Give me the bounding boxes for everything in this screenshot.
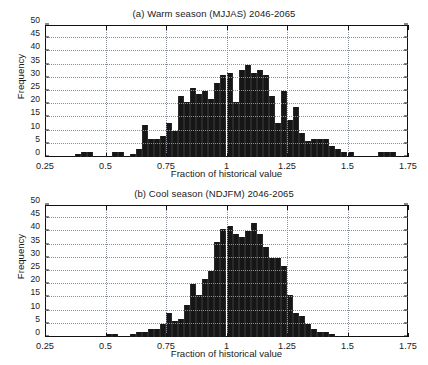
- x-tick-mark: [227, 333, 228, 338]
- x-tick-mark: [287, 153, 288, 158]
- gridline-vertical: [166, 25, 167, 157]
- panel-a-xlabel: Fraction of historical value: [45, 168, 408, 179]
- x-tick-mark: [227, 153, 228, 158]
- y-tick-mark: [45, 230, 49, 231]
- y-tick-mark: [45, 283, 49, 284]
- y-tick-mark: [45, 243, 49, 244]
- x-tick-mark-top: [166, 25, 167, 30]
- y-tick-mark: [45, 90, 49, 91]
- y-tick-mark-right: [404, 217, 408, 218]
- panel-a-ylabel: Frequency: [15, 37, 26, 117]
- x-tick-mark: [348, 153, 349, 158]
- y-tick-mark-right: [404, 256, 408, 257]
- gridline-vertical: [227, 25, 228, 157]
- y-tick-label: 50: [30, 15, 40, 25]
- x-tick-mark-top: [348, 205, 349, 210]
- gridline-vertical: [106, 205, 107, 337]
- panel-a-title: (a) Warm season (MJJAS) 2046-2065: [0, 8, 428, 19]
- y-tick-label: 0: [35, 327, 40, 337]
- y-tick-label: 30: [30, 248, 40, 258]
- gridline-vertical: [227, 205, 228, 337]
- y-tick-mark-right: [404, 296, 408, 297]
- y-tick-mark: [45, 129, 49, 130]
- x-tick-mark: [408, 153, 409, 158]
- x-tick-mark-top: [408, 205, 409, 210]
- y-tick-mark-right: [404, 309, 408, 310]
- x-tick-mark-top: [106, 205, 107, 210]
- histogram-bar: [112, 334, 118, 337]
- panel-b-xlabel: Fraction of historical value: [45, 348, 408, 359]
- x-tick-mark-top: [227, 25, 228, 30]
- y-tick-mark: [45, 142, 49, 143]
- y-tick-label: 20: [30, 274, 40, 284]
- y-tick-mark-right: [404, 270, 408, 271]
- x-tick-mark: [106, 333, 107, 338]
- y-tick-label: 45: [30, 28, 40, 38]
- x-tick-mark-top: [287, 25, 288, 30]
- y-tick-mark: [45, 37, 49, 38]
- x-tick-mark: [45, 153, 46, 158]
- x-tick-mark: [106, 153, 107, 158]
- panel-a-plot: 051015202530354045500.250.50.7511.251.51…: [45, 25, 408, 157]
- y-tick-label: 30: [30, 68, 40, 78]
- y-tick-label: 35: [30, 235, 40, 245]
- histogram-bar: [87, 152, 93, 157]
- y-tick-mark-right: [404, 90, 408, 91]
- y-tick-label: 40: [30, 41, 40, 51]
- x-tick-mark-top: [166, 205, 167, 210]
- y-tick-mark-right: [404, 283, 408, 284]
- y-tick-label: 15: [30, 287, 40, 297]
- y-tick-mark: [45, 256, 49, 257]
- y-tick-label: 50: [30, 195, 40, 205]
- gridline-vertical: [287, 25, 288, 157]
- histogram-bar: [390, 152, 396, 157]
- y-tick-mark-right: [404, 230, 408, 231]
- y-tick-label: 20: [30, 94, 40, 104]
- y-tick-mark: [45, 63, 49, 64]
- y-tick-mark: [45, 270, 49, 271]
- x-tick-mark-top: [287, 205, 288, 210]
- y-tick-label: 0: [35, 147, 40, 157]
- chart-panel-warm-season: (a) Warm season (MJJAS) 2046-2065 Freque…: [0, 0, 428, 182]
- gridline-vertical: [166, 205, 167, 337]
- y-tick-mark-right: [404, 322, 408, 323]
- chart-panel-cool-season: (b) Cool season (NDJFM) 2046-2065 Freque…: [0, 180, 428, 362]
- y-tick-mark-right: [404, 63, 408, 64]
- y-tick-mark-right: [404, 243, 408, 244]
- y-tick-label: 5: [35, 314, 40, 324]
- gridline-vertical: [348, 25, 349, 157]
- gridline-vertical: [287, 205, 288, 337]
- panel-b-title: (b) Cool season (NDJFM) 2046-2065: [0, 188, 428, 199]
- x-tick-mark: [348, 333, 349, 338]
- y-tick-label: 45: [30, 208, 40, 218]
- panel-b-ylabel-holder: Frequency: [4, 205, 18, 337]
- x-tick-mark: [45, 333, 46, 338]
- y-tick-mark-right: [404, 103, 408, 104]
- y-tick-mark: [45, 296, 49, 297]
- y-tick-mark: [45, 309, 49, 310]
- x-tick-mark-top: [348, 25, 349, 30]
- x-tick-mark-top: [106, 25, 107, 30]
- y-tick-label: 10: [30, 121, 40, 131]
- x-tick-mark: [166, 153, 167, 158]
- y-tick-mark-right: [404, 37, 408, 38]
- x-tick-mark-top: [408, 25, 409, 30]
- y-tick-mark: [45, 322, 49, 323]
- y-tick-label: 5: [35, 134, 40, 144]
- y-tick-mark-right: [404, 116, 408, 117]
- y-tick-mark: [45, 116, 49, 117]
- y-tick-label: 10: [30, 301, 40, 311]
- y-tick-mark: [45, 50, 49, 51]
- x-tick-mark: [408, 333, 409, 338]
- gridline-vertical: [348, 205, 349, 337]
- y-tick-label: 25: [30, 81, 40, 91]
- x-tick-mark-top: [45, 205, 46, 210]
- x-tick-mark-top: [227, 205, 228, 210]
- y-tick-label: 35: [30, 55, 40, 65]
- gridline-vertical: [106, 25, 107, 157]
- y-tick-mark-right: [404, 129, 408, 130]
- x-tick-mark: [287, 333, 288, 338]
- y-tick-mark: [45, 217, 49, 218]
- y-tick-mark-right: [404, 142, 408, 143]
- y-tick-mark: [45, 76, 49, 77]
